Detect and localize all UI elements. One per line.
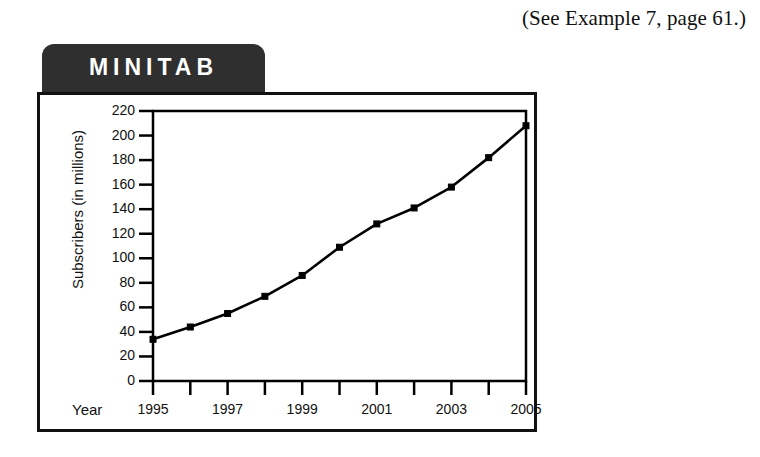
minitab-output-panel: Subscribers (in millions) 02040608010012…	[37, 92, 537, 432]
page-caption: (See Example 7, page 61.)	[522, 6, 746, 31]
minitab-tab-label: MINITAB	[42, 54, 265, 81]
line-chart-plot	[40, 95, 540, 435]
minitab-tab: MINITAB	[42, 44, 265, 93]
chart-area: Subscribers (in millions) 02040608010012…	[40, 95, 540, 435]
